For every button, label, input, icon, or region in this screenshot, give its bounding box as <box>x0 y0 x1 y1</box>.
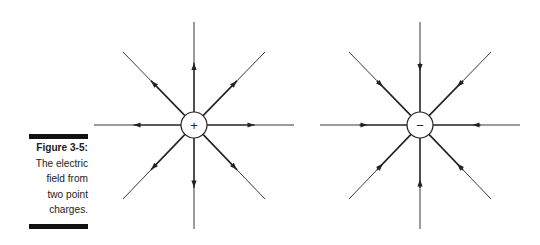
arrowhead-inward-icon <box>417 64 422 71</box>
negative-charge: − <box>407 112 433 138</box>
field-line <box>123 52 151 81</box>
arrowhead-inward-icon <box>473 122 480 127</box>
positive-charge: + <box>181 112 207 138</box>
arrowhead-inward-icon <box>417 180 422 187</box>
arrowhead-inward-icon <box>361 122 368 127</box>
field-line <box>237 52 265 81</box>
arrowhead-outward-icon <box>191 181 196 188</box>
field-line <box>123 170 151 199</box>
minus-sign-icon: − <box>416 118 424 133</box>
field-line <box>463 170 491 199</box>
plus-sign-icon: + <box>190 118 198 133</box>
field-line <box>463 52 491 81</box>
field-line <box>237 170 265 199</box>
field-line <box>349 170 377 199</box>
electric-field-diagram: + − <box>0 0 540 245</box>
arrowhead-outward-icon <box>134 122 141 127</box>
arrowhead-outward-icon <box>191 63 196 70</box>
field-line <box>349 52 377 81</box>
arrowhead-outward-icon <box>248 122 255 127</box>
